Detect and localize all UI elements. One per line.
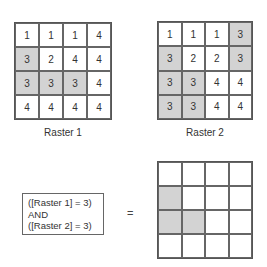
result-cell (229, 210, 253, 234)
result-cell (205, 162, 229, 186)
raster2-cell: 3 (182, 71, 206, 95)
result-cell (158, 234, 182, 258)
result-cell (158, 210, 182, 234)
raster2-cell: 1 (205, 22, 229, 46)
raster1-cell: 4 (87, 47, 111, 71)
raster1-cell: 3 (63, 71, 87, 95)
result-cell (182, 234, 206, 258)
raster2-cell: 3 (182, 95, 206, 119)
result-cell (158, 186, 182, 210)
raster2-cell: 3 (158, 71, 182, 95)
raster2-cell: 4 (229, 71, 253, 95)
raster1-cell: 4 (39, 95, 63, 119)
raster1-cell: 2 (39, 47, 63, 71)
result-cell (205, 186, 229, 210)
raster-1-grid: 1114324433344444 (14, 22, 112, 120)
raster2-cell: 1 (158, 22, 182, 46)
raster1-cell: 4 (87, 95, 111, 119)
raster2-cell: 3 (158, 46, 182, 70)
raster2-cell: 4 (205, 95, 229, 119)
result-cell (182, 210, 206, 234)
raster1-cell: 1 (63, 23, 87, 47)
raster2-cell: 4 (229, 95, 253, 119)
raster2-cell: 4 (205, 71, 229, 95)
raster2-cell: 3 (229, 22, 253, 46)
result-cell (182, 162, 206, 186)
raster1-cell: 3 (15, 71, 39, 95)
result-cell (229, 162, 253, 186)
expression-operator: AND (28, 209, 103, 221)
raster2-cell: 1 (182, 22, 206, 46)
raster2-cell: 3 (229, 46, 253, 70)
result-cell (229, 186, 253, 210)
result-cell (205, 234, 229, 258)
result-cell (158, 162, 182, 186)
result-cell (182, 186, 206, 210)
raster-2-grid: 1113322333443344 (157, 21, 253, 120)
raster2-cell: 2 (182, 46, 206, 70)
expression-line-3: ([Raster 2] = 3) (28, 220, 103, 232)
result-grid (157, 161, 253, 259)
raster1-cell: 1 (15, 23, 39, 47)
raster1-cell: 3 (39, 71, 63, 95)
result-cell (205, 210, 229, 234)
raster2-cell: 2 (205, 46, 229, 70)
raster1-cell: 4 (15, 95, 39, 119)
raster1-cell: 4 (63, 47, 87, 71)
expression-box: ([Raster 1] = 3) AND ([Raster 2] = 3) (22, 193, 104, 235)
raster1-cell: 4 (63, 95, 87, 119)
raster1-cell: 3 (15, 47, 39, 71)
raster-2-label: Raster 2 (155, 127, 255, 138)
raster-1-label: Raster 1 (13, 127, 113, 138)
equals-sign: = (127, 207, 133, 219)
expression-line-1: ([Raster 1] = 3) (28, 197, 103, 209)
raster1-cell: 4 (87, 23, 111, 47)
raster1-cell: 1 (39, 23, 63, 47)
raster1-cell: 4 (87, 71, 111, 95)
result-cell (229, 234, 253, 258)
raster2-cell: 3 (158, 95, 182, 119)
